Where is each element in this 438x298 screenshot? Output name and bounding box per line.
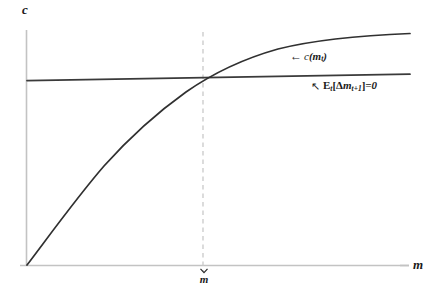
consumption-function-curve [27, 34, 410, 266]
x-axis-title: m [413, 258, 423, 271]
y-axis-title: c [22, 3, 28, 16]
delta-symbol: Δ [336, 79, 343, 91]
m-symbol: m [343, 79, 352, 91]
x-tick-mbar-letter: m [200, 273, 209, 285]
up-left-arrow-icon: ↖ [311, 81, 320, 92]
m-subscript: t+1 [352, 84, 362, 93]
x-tick-label-mbar: m [196, 268, 212, 285]
left-arrow-icon: ← [290, 50, 301, 62]
figure-container: c m m ← c(mt) ↖ Et[Δmt+1]=0 [0, 0, 438, 298]
paren-close: ) [323, 50, 327, 62]
m-symbol: m [313, 50, 322, 62]
chart-canvas [0, 0, 438, 298]
equals-zero: =0 [365, 79, 377, 91]
annotation-consumption-text: c(mt) [304, 51, 327, 62]
m-subscript: t [321, 54, 323, 63]
annotation-steady-state-locus: ↖ Et[Δmt+1]=0 [311, 80, 377, 91]
annotation-steady-state-text: Et[Δmt+1]=0 [323, 80, 377, 91]
annotation-consumption-function: ← c(mt) [290, 50, 327, 62]
